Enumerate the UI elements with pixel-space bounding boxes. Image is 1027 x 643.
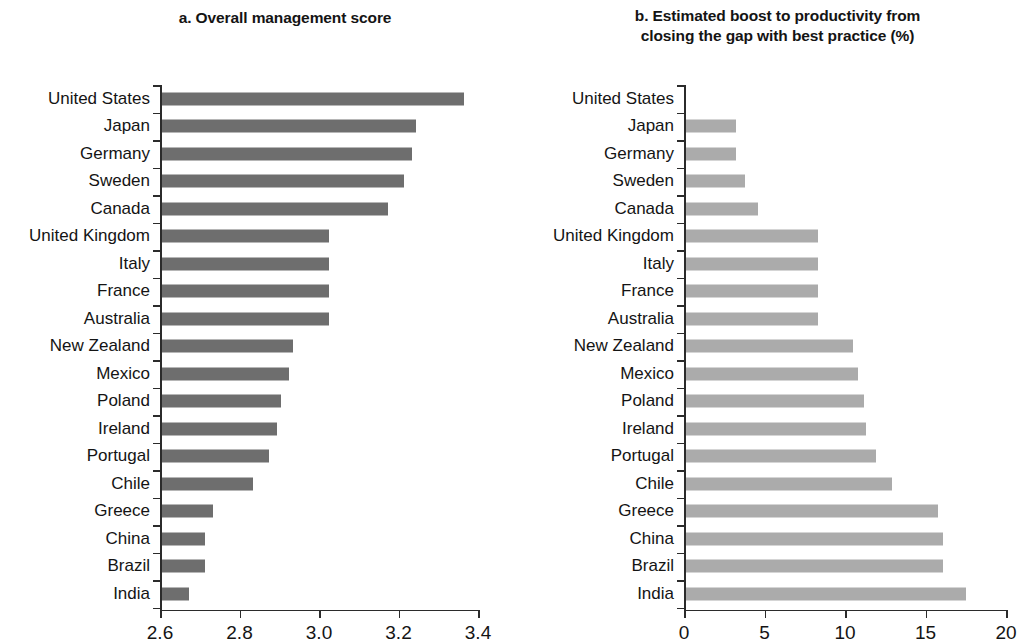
category-label-portugal: Portugal [611,446,674,466]
bar-row: Greece [514,498,1027,526]
panel-b-title: b. Estimated boost to productivity from … [514,6,1027,46]
bar-row: Australia [514,305,1027,333]
panel-a-bar-rows: United StatesJapanGermanySwedenCanadaUni… [0,85,514,643]
bar-china [686,532,944,545]
bar-mexico [162,367,289,380]
bar-mexico [686,367,858,380]
bar-sweden [686,175,746,188]
x-tick-mark [765,610,767,618]
bar-row: China [514,525,1027,553]
y-tick-mark [677,195,684,197]
y-tick-mark [153,360,160,362]
bar-row: Germany [514,140,1027,168]
category-label-poland: Poland [621,391,674,411]
bar-row: Poland [514,388,1027,416]
bar-australia [162,312,329,325]
category-label-china: China [106,529,150,549]
bar-portugal [162,450,269,463]
bar-row: Mexico [0,360,514,388]
x-tick-label: 3.4 [465,622,491,643]
bar-china [162,532,206,545]
category-label-united-kingdom: United Kingdom [553,226,674,246]
category-label-sweden: Sweden [89,171,150,191]
x-tick-mark [926,610,928,618]
category-label-chile: Chile [111,474,150,494]
bar-japan [686,120,736,133]
category-label-united-states: United States [48,89,150,109]
category-label-canada: Canada [90,199,150,219]
bar-row: Japan [0,113,514,141]
bar-row: China [0,525,514,553]
panel-a-title: a. Overall management score [0,8,514,28]
bar-row: France [0,278,514,306]
panel-b-bar-rows: United StatesJapanGermanySwedenCanadaUni… [514,85,1027,643]
y-tick-mark [153,168,160,170]
bar-row: Poland [0,388,514,416]
bar-row: United States [0,85,514,113]
y-tick-mark [153,195,160,197]
category-label-new-zealand: New Zealand [574,336,674,356]
x-tick-mark [319,610,321,618]
category-label-poland: Poland [97,391,150,411]
y-tick-mark [677,415,684,417]
bar-row: Ireland [0,415,514,443]
x-tick-label: 20 [995,622,1016,643]
panel-a-plot-area: United StatesJapanGermanySwedenCanadaUni… [0,85,514,643]
bar-united-kingdom [686,230,818,243]
category-label-france: France [97,281,150,301]
bar-poland [686,395,865,408]
category-label-brazil: Brazil [107,556,150,576]
y-tick-mark [677,608,684,610]
category-label-chile: Chile [635,474,674,494]
bar-row: Sweden [514,168,1027,196]
y-tick-mark [677,498,684,500]
y-tick-mark [153,85,160,87]
category-label-germany: Germany [80,144,150,164]
category-label-mexico: Mexico [96,364,150,384]
y-tick-mark [153,608,160,610]
y-tick-mark [153,580,160,582]
y-tick-mark [677,553,684,555]
bar-row: Italy [0,250,514,278]
x-tick-label: 10 [834,622,855,643]
x-tick-mark [160,610,162,618]
y-tick-mark [677,333,684,335]
bar-row: Portugal [514,443,1027,471]
bar-row: Germany [0,140,514,168]
category-label-canada: Canada [614,199,674,219]
category-label-greece: Greece [618,501,674,521]
category-label-italy: Italy [643,254,674,274]
bar-new-zealand [162,340,293,353]
y-tick-mark [153,470,160,472]
bar-france [686,285,818,298]
y-tick-mark [153,443,160,445]
bar-row: United Kingdom [0,223,514,251]
bar-row: France [514,278,1027,306]
y-tick-mark [677,525,684,527]
x-tick-label: 2.8 [226,622,252,643]
bar-row: United Kingdom [514,223,1027,251]
bar-germany [162,147,412,160]
x-tick-mark [478,610,480,618]
panel-b-y-axis [684,85,686,610]
category-label-japan: Japan [628,116,674,136]
category-label-united-states: United States [572,89,674,109]
category-label-australia: Australia [608,309,674,329]
x-tick-label: 5 [759,622,770,643]
category-label-australia: Australia [84,309,150,329]
panel-a-overall-management-score: a. Overall management score United State… [0,0,514,613]
bar-india [686,587,966,600]
x-tick-label: 0 [679,622,690,643]
bar-new-zealand [686,340,853,353]
panel-b-title-line-1: b. Estimated boost to productivity from [532,6,1023,26]
bar-row: India [514,580,1027,608]
category-label-ireland: Ireland [622,419,674,439]
category-label-italy: Italy [119,254,150,274]
y-tick-mark [153,415,160,417]
bar-row: Portugal [0,443,514,471]
x-tick-mark [845,610,847,618]
bar-row: United States [514,85,1027,113]
category-label-china: China [630,529,674,549]
bar-row: Australia [0,305,514,333]
bar-row: Brazil [0,553,514,581]
